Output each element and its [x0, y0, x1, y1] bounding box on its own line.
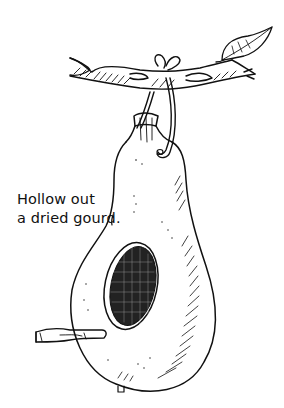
entrance-hole-icon	[96, 238, 165, 335]
branch-icon	[70, 58, 255, 89]
perch-stick-icon	[36, 329, 106, 342]
leaf-icon	[216, 27, 272, 62]
caption: Hollow out a dried gourd.	[17, 190, 121, 228]
caption-line-2: a dried gourd.	[17, 209, 121, 228]
caption-line-1: Hollow out	[17, 190, 121, 209]
illustration-canvas: Hollow out a dried gourd.	[0, 0, 284, 408]
